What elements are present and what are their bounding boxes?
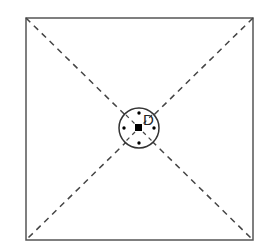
dot-left [122,126,125,129]
diagram-canvas: D [0,0,264,250]
dot-bottom [137,141,140,144]
dot-top [137,111,140,114]
label-d: D [143,111,154,128]
center-marker [135,124,142,131]
